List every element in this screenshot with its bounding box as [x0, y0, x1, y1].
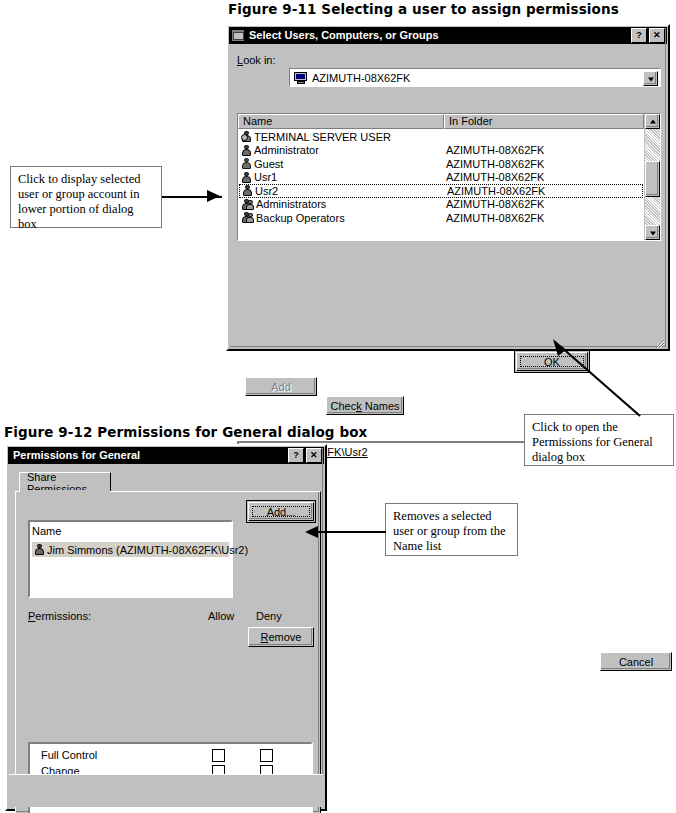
chevron-down-icon[interactable] — [643, 71, 658, 86]
permission-label: Full Control — [41, 749, 97, 761]
column-header-name[interactable]: Name — [238, 114, 444, 129]
list-item[interactable]: Jim Simmons (AZIMUTH-08X62FK\Usr2) — [32, 542, 229, 557]
name-list[interactable]: Name Jim Simmons (AZIMUTH-08X62FK\Usr2) — [28, 520, 233, 598]
table-row[interactable]: AdministratorsAZIMUTH-08X62FK — [239, 198, 643, 212]
checkbox-deny[interactable] — [260, 749, 273, 762]
resize-grip-icon[interactable] — [653, 335, 665, 347]
row-in-folder: AZIMUTH-08X62FK — [446, 144, 544, 156]
callout-add: Click to display selected user or group … — [10, 166, 162, 228]
table-row[interactable]: TERMINAL SERVER USER — [239, 130, 643, 144]
list-item-label: Jim Simmons (AZIMUTH-08X62FK\Usr2) — [45, 544, 248, 556]
permissions-title: Permissions for General — [11, 447, 286, 464]
window-menu-icon[interactable] — [232, 30, 244, 41]
row-name: TERMINAL SERVER USER — [252, 131, 391, 143]
group-icon — [241, 199, 254, 210]
scroll-up-button[interactable] — [645, 114, 660, 129]
select-users-titlebar: Select Users, Computers, or Groups ? ✕ — [229, 27, 667, 44]
name-column-header: Name — [32, 525, 61, 537]
user-icon — [34, 544, 45, 555]
column-header-in-folder[interactable]: In Folder — [444, 114, 644, 129]
close-icon[interactable]: ✕ — [649, 28, 665, 43]
row-name: Administrator — [252, 144, 319, 156]
close-icon-2[interactable]: ✕ — [306, 448, 322, 463]
callout-remove-arrowhead — [305, 526, 318, 538]
list-vertical-scrollbar[interactable] — [644, 114, 660, 240]
list-header: Name In Folder — [238, 114, 644, 129]
look-in-combobox[interactable]: AZIMUTH-08X62FK — [289, 68, 661, 87]
list-rows: TERMINAL SERVER USERAdministratorAZIMUTH… — [239, 130, 643, 225]
table-row[interactable]: Usr1AZIMUTH-08X62FK — [239, 171, 643, 185]
add-button-2-label: Add... — [267, 506, 296, 518]
add-button-label: Add — [271, 381, 291, 393]
figure-9-11-caption: Figure 9-11 Selecting a user to assign p… — [228, 1, 619, 17]
help-button[interactable]: ? — [631, 28, 647, 43]
callout-remove-leader-line — [318, 531, 386, 533]
row-in-folder: AZIMUTH-08X62FK — [446, 212, 544, 224]
row-in-folder: AZIMUTH-08X62FK — [447, 185, 545, 197]
button-bar — [9, 774, 323, 807]
callout-remove: Removes a selected user or group from th… — [385, 503, 518, 556]
help-button-2[interactable]: ? — [288, 448, 304, 463]
select-users-dialog: Select Users, Computers, or Groups ? ✕ L… — [226, 24, 670, 351]
user-icon — [242, 185, 253, 196]
tab-share-permissions[interactable]: Share Permissions — [19, 472, 111, 492]
table-row[interactable]: AdministratorAZIMUTH-08X62FK — [239, 144, 643, 158]
cancel-button[interactable]: Cancel — [600, 652, 672, 671]
checkbox-allow[interactable] — [212, 749, 225, 762]
check-names-button-label: Check Names — [330, 400, 399, 412]
table-row[interactable]: Usr2AZIMUTH-08X62FK — [239, 184, 643, 198]
user-icon — [241, 145, 252, 156]
row-in-folder: AZIMUTH-08X62FK — [446, 171, 544, 183]
add-button-2[interactable]: Add... — [248, 502, 314, 521]
row-in-folder: AZIMUTH-08X62FK — [446, 198, 544, 210]
scrollbar-thumb[interactable] — [645, 161, 660, 197]
computer-icon — [294, 72, 308, 84]
name-list-rows: Jim Simmons (AZIMUTH-08X62FK\Usr2) — [32, 542, 229, 557]
permissions-titlebar: Permissions for General ? ✕ — [8, 447, 324, 464]
permissions-dialog: Permissions for General ? ✕ Share Permis… — [5, 444, 327, 811]
table-row[interactable]: Backup OperatorsAZIMUTH-08X62FK — [239, 211, 643, 225]
look-in-label: LLook in:ook in: — [237, 54, 276, 66]
permission-row: Full Control — [30, 748, 311, 764]
user-icon — [241, 172, 252, 183]
row-name: Backup Operators — [254, 212, 345, 224]
allow-column-header: Allow — [208, 610, 234, 622]
callout-ok: Click to open the Permissions for Genera… — [524, 414, 674, 466]
group-icon — [241, 212, 254, 223]
row-name: Usr1 — [252, 171, 277, 183]
cancel-button-label: Cancel — [619, 656, 653, 668]
globe-user-icon — [241, 131, 252, 142]
add-button[interactable]: Add — [245, 377, 317, 396]
figure-9-12-caption: Figure 9-12 Permissions for General dial… — [4, 424, 367, 440]
users-list[interactable]: Name In Folder TERMINAL SERVER USERAdmin… — [237, 113, 661, 241]
guest-user-icon — [241, 158, 252, 169]
row-in-folder: AZIMUTH-08X62FK — [446, 158, 544, 170]
deny-column-header: Deny — [256, 610, 282, 622]
permissions-label: Permissions: — [28, 610, 91, 622]
scroll-down-button[interactable] — [645, 225, 660, 240]
row-name: Usr2 — [253, 185, 278, 197]
add-button-2-frame: Add... — [246, 500, 316, 523]
callout-add-arrowhead — [207, 190, 220, 202]
remove-button[interactable]: Remove — [248, 627, 314, 647]
check-names-button[interactable]: Check Names — [326, 396, 404, 415]
callout-ok-leader — [540, 336, 650, 418]
remove-button-label: Remove — [261, 631, 302, 643]
tab-seam — [20, 490, 110, 493]
select-users-title: Select Users, Computers, or Groups — [247, 27, 629, 44]
look-in-value: AZIMUTH-08X62FK — [312, 72, 410, 84]
table-row[interactable]: GuestAZIMUTH-08X62FK — [239, 157, 643, 171]
row-name: Guest — [252, 158, 283, 170]
row-name: Administrators — [254, 198, 326, 210]
